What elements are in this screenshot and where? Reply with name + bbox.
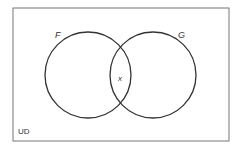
set-g-label: G — [178, 30, 185, 40]
set-g-circle — [110, 32, 196, 118]
universe-label: UD — [18, 127, 30, 136]
venn-diagram: F G x UD — [0, 0, 238, 150]
set-f-label: F — [55, 30, 61, 40]
intersection-label: x — [117, 74, 123, 83]
